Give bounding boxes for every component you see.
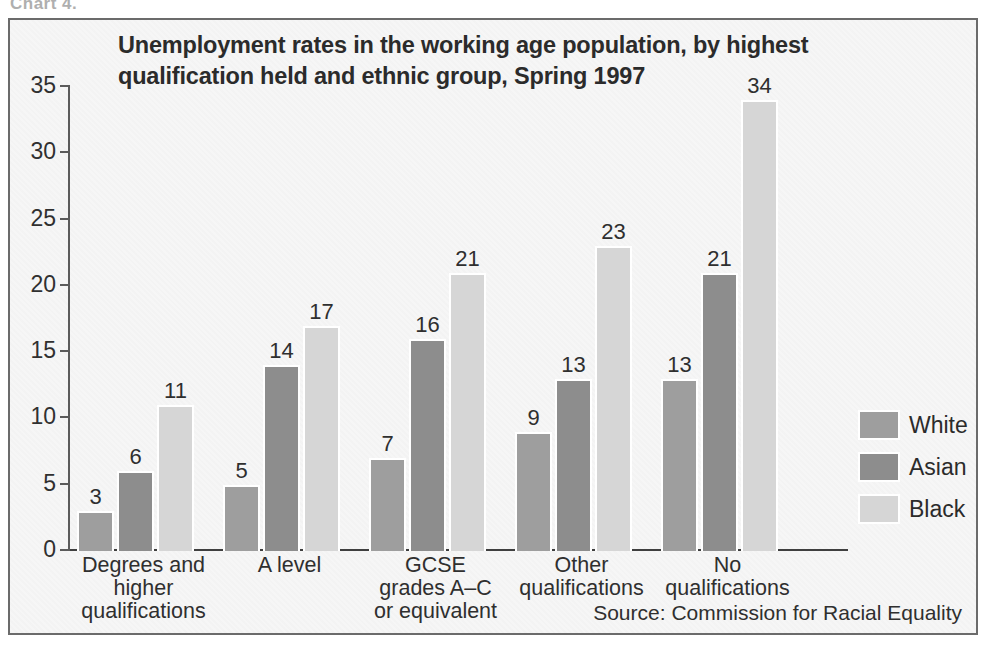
x-axis-category-label: No qualifications <box>638 554 818 600</box>
plot-area: 05101520253035 3611514177162191323132134 <box>60 85 960 553</box>
y-axis-tick: 10 <box>60 416 70 418</box>
bar-value-label: 34 <box>747 73 771 99</box>
chart-frame: Unemployment rates in the working age po… <box>8 18 978 635</box>
y-axis-tick-mark <box>60 284 70 286</box>
y-axis-tick-mark <box>60 483 70 485</box>
bar-group: 91323 <box>515 87 632 551</box>
legend-item-asian[interactable]: Asian <box>858 446 978 488</box>
bar-white[interactable]: 3 <box>77 511 114 551</box>
bar-black[interactable]: 17 <box>303 326 340 551</box>
bar-value-label: 6 <box>129 444 141 470</box>
y-axis-tick-label: 20 <box>30 270 56 297</box>
bar-value-label: 7 <box>381 431 393 457</box>
y-axis-tick-label: 30 <box>30 138 56 165</box>
y-axis-tick-label: 25 <box>30 204 56 231</box>
y-axis-tick-mark <box>60 218 70 220</box>
bar-value-label: 23 <box>601 219 625 245</box>
bar-group: 3611 <box>77 87 194 551</box>
bar-asian[interactable]: 13 <box>555 379 592 551</box>
bar-group: 132134 <box>661 87 778 551</box>
y-axis-line <box>68 85 70 551</box>
y-axis-tick: 15 <box>60 350 70 352</box>
bar-asian[interactable]: 14 <box>263 365 300 551</box>
bar-value-label: 9 <box>527 405 539 431</box>
bar-value-label: 13 <box>561 352 585 378</box>
bar-white[interactable]: 9 <box>515 432 552 551</box>
bar-value-label: 11 <box>164 378 187 404</box>
bar-value-label: 3 <box>89 484 101 510</box>
bar-value-label: 16 <box>415 312 439 338</box>
bar-asian[interactable]: 6 <box>117 471 154 551</box>
bar-value-label: 21 <box>707 246 731 272</box>
y-axis-tick-mark <box>60 416 70 418</box>
bar-value-label: 17 <box>309 299 333 325</box>
bar-value-label: 5 <box>235 458 247 484</box>
y-axis-tick: 30 <box>60 151 70 153</box>
bar-black[interactable]: 21 <box>449 273 486 551</box>
y-axis-tick: 0 <box>60 549 70 551</box>
y-axis-tick: 5 <box>60 483 70 485</box>
legend-swatch-black <box>858 494 900 524</box>
bar-value-label: 13 <box>667 352 691 378</box>
y-axis-tick-label: 10 <box>30 403 56 430</box>
y-axis-tick-mark <box>60 549 70 551</box>
bar-value-label: 14 <box>269 338 293 364</box>
chart-title: Unemployment rates in the working age po… <box>118 30 908 91</box>
legend-item-black[interactable]: Black <box>858 488 978 530</box>
legend-swatch-white <box>858 410 900 440</box>
y-axis-tick: 20 <box>60 284 70 286</box>
y-axis-tick: 35 <box>60 85 70 87</box>
legend-label: Black <box>909 496 965 523</box>
bar-asian[interactable]: 16 <box>409 339 446 551</box>
y-axis-tick-mark <box>60 151 70 153</box>
figure-caption-strip: Chart 4. <box>10 0 170 12</box>
bar-black[interactable]: 34 <box>741 100 778 551</box>
legend-swatch-asian <box>858 452 900 482</box>
y-axis-tick-mark <box>60 350 70 352</box>
bar-asian[interactable]: 21 <box>701 273 738 551</box>
y-axis-tick-label: 15 <box>30 337 56 364</box>
bar-black[interactable]: 11 <box>157 405 194 551</box>
bar-value-label: 21 <box>455 246 479 272</box>
y-axis-tick: 25 <box>60 218 70 220</box>
legend-label: White <box>909 412 968 439</box>
bar-white[interactable]: 7 <box>369 458 406 551</box>
source-note: Source: Commission for Racial Equality <box>593 601 962 625</box>
legend-label: Asian <box>909 454 967 481</box>
bar-group: 71621 <box>369 87 486 551</box>
bar-white[interactable]: 13 <box>661 379 698 551</box>
bar-black[interactable]: 23 <box>595 246 632 551</box>
bar-white[interactable]: 5 <box>223 485 260 551</box>
legend: WhiteAsianBlack <box>858 404 978 530</box>
legend-item-white[interactable]: White <box>858 404 978 446</box>
y-axis-tick-label: 35 <box>30 72 56 99</box>
y-axis-tick-mark <box>60 85 70 87</box>
y-axis-tick-label: 5 <box>43 469 56 496</box>
bar-group: 51417 <box>223 87 340 551</box>
